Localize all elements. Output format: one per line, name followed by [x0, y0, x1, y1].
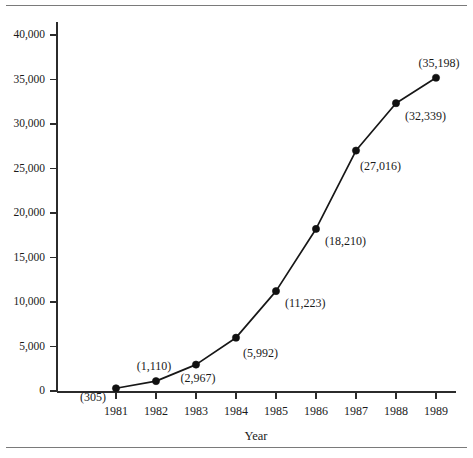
data-point-marker: [432, 74, 439, 81]
y-axis-tick-label: 0: [39, 384, 45, 396]
series-point-labels: (305)(1,110)(2,967)(5,992)(11,223)(18,21…: [80, 56, 460, 405]
data-point-marker: [392, 100, 399, 107]
x-axis-tick-label: 1986: [304, 404, 328, 418]
x-axis-tick-label: 1982: [144, 404, 168, 418]
x-axis-tick-label: 1987: [344, 404, 368, 418]
y-axis-tick-label: 35,000: [13, 73, 45, 86]
y-axis-tick-label: 15,000: [13, 251, 45, 264]
y-axis-tick-label: 20,000: [13, 206, 45, 219]
data-point-marker: [312, 225, 319, 232]
series-markers: [112, 74, 439, 392]
data-point-label: (5,992): [243, 346, 278, 360]
x-axis-tick-label: 1983: [184, 404, 208, 418]
line-chart: 05,00010,00015,00020,00025,00030,00035,0…: [0, 0, 473, 458]
y-axis-ticks: [50, 35, 57, 391]
figure-container: 05,00010,00015,00020,00025,00030,00035,0…: [0, 0, 473, 458]
data-point-label: (1,110): [137, 359, 172, 373]
series-line-1: [116, 78, 436, 389]
data-series-group: (305)(1,110)(2,967)(5,992)(11,223)(18,21…: [80, 56, 460, 405]
y-axis-tick-label: 25,000: [13, 162, 45, 175]
data-point-label: (35,198): [419, 56, 460, 70]
y-axis-tick-label: 30,000: [13, 117, 45, 130]
y-axis-tick-label: 10,000: [13, 295, 45, 308]
x-axis-tick-label: 1985: [264, 404, 288, 418]
y-axis-group: 05,00010,00015,00020,00025,00030,00035,0…: [13, 22, 57, 396]
data-point-label: (27,016): [360, 159, 401, 173]
x-axis-tick-label: 1989: [424, 404, 448, 418]
x-axis-tick-label: 1984: [224, 404, 248, 418]
y-axis-tick-label: 5,000: [19, 340, 45, 353]
data-point-label: (11,223): [285, 296, 326, 310]
x-axis-tick-labels: 198119821983198419851986198719881989: [104, 404, 448, 418]
data-point-marker: [192, 361, 199, 368]
data-point-label: (32,339): [405, 109, 446, 123]
y-axis-tick-label: 40,000: [13, 28, 45, 41]
x-axis-title: Year: [244, 429, 268, 443]
data-point-marker: [152, 378, 159, 385]
data-point-label: (2,967): [181, 371, 216, 385]
data-point-marker: [272, 288, 279, 295]
x-axis-tick-label: 1981: [104, 404, 128, 418]
x-axis-group: 198119821983198419851986198719881989: [57, 392, 456, 418]
y-axis-tick-labels: 05,00010,00015,00020,00025,00030,00035,0…: [13, 28, 45, 396]
data-point-marker: [352, 147, 359, 154]
data-point-label: (305): [80, 390, 106, 404]
x-axis-ticks: [116, 392, 436, 399]
x-axis-tick-label: 1988: [384, 404, 408, 418]
data-point-marker: [232, 334, 239, 341]
data-point-label: (18,210): [325, 234, 366, 248]
data-point-marker: [112, 385, 119, 392]
